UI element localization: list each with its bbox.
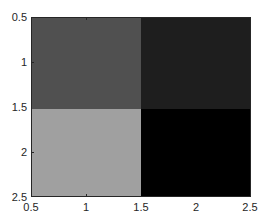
- y-tick-label: 0.5: [12, 11, 27, 23]
- y-tick-label: 2: [21, 146, 27, 158]
- cell-r2-c2: [141, 109, 250, 196]
- x-tick-mark: [86, 194, 87, 197]
- cell-r1-c2: [141, 18, 250, 109]
- cell-r1-c1: [32, 18, 141, 109]
- x-tick-label: 1.5: [133, 201, 148, 213]
- x-tick-label: 1: [83, 201, 89, 213]
- x-tick-label: 2: [193, 201, 199, 213]
- y-tick-mark: [31, 62, 34, 63]
- cell-r2-c1: [32, 109, 141, 196]
- x-tick-label: 2.5: [242, 201, 257, 213]
- y-tick-label: 1.5: [12, 101, 27, 113]
- heatmap-plot-area: [31, 17, 251, 197]
- y-tick-label: 1: [21, 56, 27, 68]
- x-tick-label: 0.5: [23, 201, 38, 213]
- x-tick-mark: [86, 17, 87, 20]
- y-tick-mark: [31, 152, 34, 153]
